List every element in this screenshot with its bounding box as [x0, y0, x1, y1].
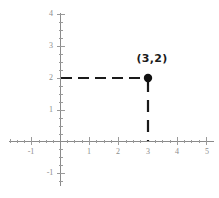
x-tick-label-4: 4: [175, 147, 179, 156]
y-tick-label-2: 2: [49, 73, 53, 82]
plot-canvas: -1 1 2 3 4 5 4 3 2 1 -1 (3,2): [0, 0, 219, 198]
x-tick-label-neg1: -1: [28, 147, 35, 156]
x-tick-marks: [11, 137, 207, 145]
x-axis-tick-labels: -1 1 2 3 4 5: [28, 147, 209, 156]
x-tick-label-3: 3: [146, 147, 150, 156]
y-tick-label-3: 3: [49, 41, 53, 50]
x-tick-label-5: 5: [205, 147, 209, 156]
coordinate-plane-figure: -1 1 2 3 4 5 4 3 2 1 -1 (3,2): [0, 0, 219, 198]
x-tick-label-1: 1: [87, 147, 91, 156]
x-tick-label-2: 2: [116, 147, 120, 156]
y-tick-label-1: 1: [49, 105, 53, 114]
y-tick-label-neg1: -1: [47, 168, 54, 177]
axes-group: [9, 13, 214, 186]
y-tick-label-4: 4: [49, 9, 53, 18]
guide-lines-group: [61, 78, 148, 141]
y-axis-tick-labels: 4 3 2 1 -1: [47, 9, 54, 177]
data-point-label: (3,2): [136, 52, 167, 65]
data-point-group: [144, 74, 152, 86]
